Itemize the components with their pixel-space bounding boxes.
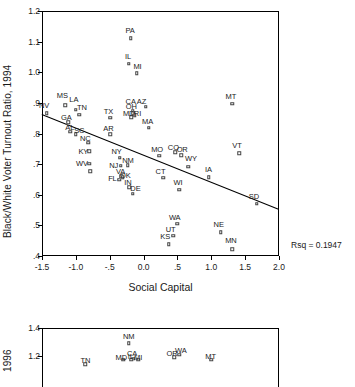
- x-tick-mark: [42, 256, 43, 260]
- data-point: [118, 156, 122, 160]
- data-point-label: CT: [156, 167, 166, 176]
- x-tick-label: -1.0: [69, 262, 84, 272]
- data-point: [167, 242, 171, 246]
- y-tick-label: .5: [10, 220, 40, 230]
- x-tick-mark: [211, 256, 212, 260]
- data-point: [45, 112, 49, 116]
- data-point-label: NM: [123, 331, 134, 340]
- data-point-label: MT: [226, 91, 237, 100]
- data-point-label: WI: [174, 178, 183, 187]
- data-point: [178, 188, 182, 192]
- x-axis-label: Social Capital: [42, 281, 279, 293]
- data-point-label: OR: [177, 145, 188, 154]
- data-point-label: WV: [76, 159, 88, 168]
- data-point-label: GA: [61, 113, 72, 122]
- plot-area: [42, 328, 279, 387]
- data-point-label: IA: [205, 165, 212, 174]
- data-point-label: MA: [142, 116, 153, 125]
- y-tick-label: .9: [10, 98, 40, 108]
- data-point: [127, 341, 131, 345]
- data-point: [109, 132, 113, 136]
- data-point: [127, 62, 131, 66]
- data-point: [187, 165, 191, 169]
- x-tick-mark: [144, 256, 145, 260]
- data-point-label: MD: [115, 352, 126, 361]
- data-point-label: WA: [169, 212, 181, 221]
- y-tick-label: .7: [10, 159, 40, 169]
- x-tick-label: .5: [174, 262, 181, 272]
- figure-container: Black/White Voter Turnout Ratio, 1994 So…: [0, 0, 355, 387]
- data-point-label: AL: [65, 122, 74, 131]
- data-point-label: RI: [134, 109, 141, 118]
- data-point-label: VT: [232, 141, 241, 150]
- data-point-label: MI: [134, 353, 142, 362]
- data-point: [180, 153, 184, 157]
- data-point-label: NE: [214, 220, 224, 229]
- data-point: [131, 192, 135, 196]
- data-point-label: TX: [104, 106, 113, 115]
- data-point: [63, 103, 67, 107]
- x-tick-label: -.5: [105, 262, 115, 272]
- data-point-label: NM: [122, 155, 133, 164]
- rsq-annotation: Rsq = 0.1947: [291, 240, 342, 250]
- x-tick-mark: [245, 256, 246, 260]
- data-point-label: AR: [103, 123, 113, 132]
- y-tick-label: 1.1: [10, 37, 40, 47]
- y-tick-label: 1.4: [10, 323, 40, 333]
- data-point-label: SC: [74, 125, 84, 134]
- data-point-label: SD: [249, 191, 259, 200]
- data-point-label: NC: [80, 134, 91, 143]
- data-point: [157, 154, 161, 158]
- x-tick-label: 2.0: [273, 262, 285, 272]
- y-axis-ticks: .4.5.6.7.8.91.01.11.2: [0, 0, 40, 290]
- y-tick-label: .4: [10, 251, 40, 261]
- x-tick-mark: [279, 256, 280, 260]
- data-point-label: IL: [125, 52, 131, 61]
- scatter-chart-1994: Black/White Voter Turnout Ratio, 1994 So…: [0, 0, 300, 290]
- data-point-label: TN: [77, 102, 87, 111]
- x-tick-label: 1.0: [205, 262, 217, 272]
- data-point: [237, 152, 241, 156]
- data-point-label: MO: [151, 145, 163, 154]
- data-point: [219, 230, 223, 234]
- x-tick-mark: [76, 256, 77, 260]
- data-point: [88, 170, 92, 174]
- data-point-label: KY: [78, 146, 88, 155]
- data-point: [231, 248, 235, 252]
- x-tick-label: 1.5: [239, 262, 251, 272]
- data-point-label: WY: [185, 154, 197, 163]
- data-point: [231, 102, 235, 106]
- data-point-label: MT: [205, 352, 216, 361]
- y-axis-ticks: 1.41.2: [0, 320, 40, 387]
- data-point-label: MI: [133, 61, 141, 70]
- data-point: [161, 176, 165, 180]
- y-tick-label: .8: [10, 129, 40, 139]
- data-point-label: WA: [175, 345, 187, 354]
- data-point: [147, 126, 151, 130]
- data-point: [77, 113, 81, 117]
- data-point-label: PA: [125, 25, 134, 34]
- data-point-label: NV: [39, 101, 49, 110]
- x-tick-label: -1.5: [35, 262, 50, 272]
- x-tick-mark: [110, 256, 111, 260]
- data-point: [135, 72, 139, 76]
- data-point-label: TN: [80, 355, 90, 364]
- data-point-label: MN: [225, 236, 236, 245]
- data-point-label: MS: [57, 91, 68, 100]
- x-tick-label: 0.0: [138, 262, 150, 272]
- data-point: [88, 162, 92, 166]
- data-point: [207, 176, 211, 180]
- data-point: [129, 37, 133, 41]
- y-tick-label: .6: [10, 190, 40, 200]
- data-point: [109, 116, 113, 120]
- y-tick-label: 1.2: [10, 6, 40, 16]
- data-point: [255, 202, 259, 206]
- scatter-chart-1996: 1996 1.41.2 NMCAMDILMIORWAMTTN: [0, 320, 355, 387]
- data-point: [176, 222, 180, 226]
- data-point-label: NY: [111, 146, 121, 155]
- y-tick-label: 1.2: [10, 351, 40, 361]
- y-tick-label: 1.0: [10, 67, 40, 77]
- data-point-label: AZ: [137, 97, 146, 106]
- data-point-label: UT: [166, 225, 176, 234]
- data-point-label: IL: [128, 352, 134, 361]
